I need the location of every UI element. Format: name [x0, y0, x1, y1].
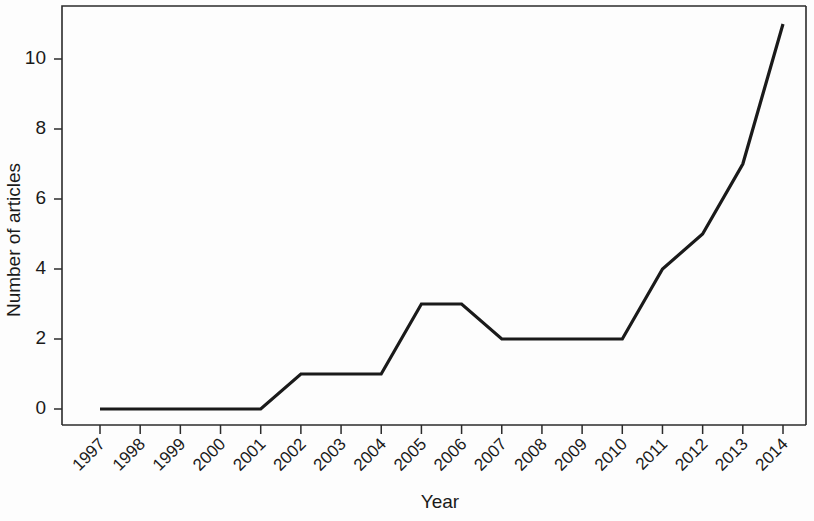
- y-tick-label: 6: [35, 187, 46, 208]
- y-tick-label: 10: [25, 47, 46, 68]
- y-tick-label: 2: [35, 327, 46, 348]
- y-tick-label: 0: [35, 397, 46, 418]
- y-axis-title: Number of articles: [3, 163, 24, 317]
- y-tick-label: 4: [35, 257, 46, 278]
- y-tick-label: 8: [35, 117, 46, 138]
- chart-figure: 0246810 19971998199920002001200220032004…: [0, 0, 814, 521]
- x-axis-title: Year: [421, 491, 460, 512]
- line-chart-svg: 0246810 19971998199920002001200220032004…: [0, 0, 814, 521]
